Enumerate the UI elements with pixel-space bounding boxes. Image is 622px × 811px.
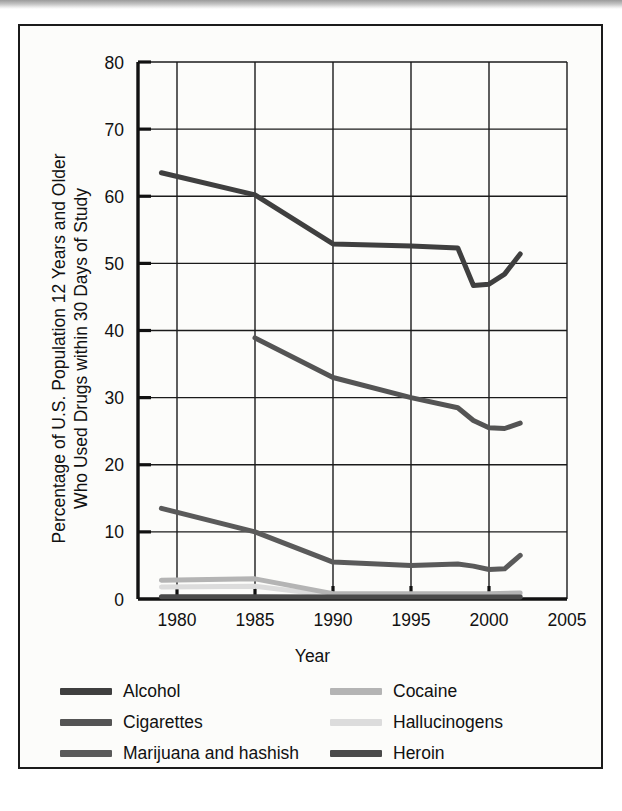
- legend-label: Heroin: [393, 743, 445, 764]
- legend-swatch-icon: [330, 719, 382, 726]
- data-series: [161, 173, 520, 597]
- legend-label: Alcohol: [123, 681, 180, 702]
- legend-swatch-icon: [60, 719, 112, 726]
- svg-text:40: 40: [105, 321, 125, 341]
- plot-area-wrapper: Percentage of U.S. Population 12 Years a…: [20, 26, 605, 771]
- legend-item: Cigarettes: [60, 712, 330, 733]
- svg-text:1985: 1985: [236, 610, 275, 630]
- svg-text:1980: 1980: [158, 610, 197, 630]
- svg-text:2005: 2005: [548, 610, 587, 630]
- legend-item: Alcohol: [60, 681, 330, 702]
- figure-frame: Percentage of U.S. Population 12 Years a…: [18, 24, 603, 769]
- legend-item: Marijuana and hashish: [60, 743, 330, 764]
- legend-item: Hallucinogens: [330, 712, 570, 733]
- legend-swatch-icon: [330, 688, 382, 695]
- series-line-marijuana-and-hashish: [161, 508, 520, 569]
- series-line-alcohol: [161, 173, 520, 286]
- series-line-cigarettes: [255, 338, 520, 429]
- chart-legend: AlcoholCocaineCigarettesHallucinogensMar…: [60, 676, 570, 769]
- svg-text:2000: 2000: [470, 610, 509, 630]
- legend-label: Hallucinogens: [393, 712, 503, 733]
- svg-text:1990: 1990: [314, 610, 353, 630]
- x-axis-title: Year: [20, 646, 605, 667]
- svg-text:80: 80: [105, 53, 125, 73]
- legend-item: Cocaine: [330, 681, 570, 702]
- scanner-edge-band: [0, 0, 622, 9]
- svg-text:20: 20: [105, 455, 125, 475]
- legend-swatch-icon: [60, 750, 112, 757]
- legend-label: Cigarettes: [123, 712, 203, 733]
- svg-text:1995: 1995: [392, 610, 431, 630]
- legend-label: Cocaine: [393, 681, 457, 702]
- legend-label: Marijuana and hashish: [123, 743, 299, 764]
- legend-swatch-icon: [330, 750, 382, 757]
- legend-swatch-icon: [60, 688, 112, 695]
- svg-text:70: 70: [105, 120, 125, 140]
- svg-text:50: 50: [105, 254, 125, 274]
- svg-text:30: 30: [105, 388, 125, 408]
- legend-item: Heroin: [330, 743, 570, 764]
- svg-text:60: 60: [105, 187, 125, 207]
- svg-text:0: 0: [114, 590, 124, 610]
- svg-text:10: 10: [105, 522, 125, 542]
